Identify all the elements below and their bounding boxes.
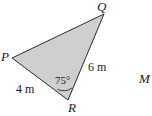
vertex-label-q: Q <box>97 0 107 14</box>
side-label-qr: 6 m <box>88 60 107 74</box>
triangle-diagram: Q P R M 6 m 4 m 75° <box>0 0 152 116</box>
angle-label-r: 75° <box>55 74 70 86</box>
point-label-m: M <box>138 71 151 86</box>
side-label-pr: 4 m <box>16 82 35 96</box>
vertex-label-r: R <box>67 100 76 115</box>
vertex-label-p: P <box>0 49 9 64</box>
